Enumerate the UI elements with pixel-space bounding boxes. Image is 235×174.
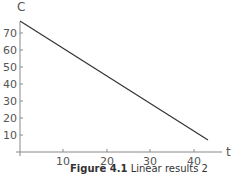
y-tick-label: 10 xyxy=(3,129,17,142)
line-chart: 10 20 30 40 50 60 70 10 20 30 40 C t xyxy=(0,0,235,174)
x-axis-label: t xyxy=(226,145,231,159)
y-tick-label: 30 xyxy=(3,95,17,108)
data-line xyxy=(20,21,208,140)
caption-prefix: Figure 4.1 xyxy=(70,163,127,174)
caption-text: Linear results 2 xyxy=(131,163,208,174)
y-tick-label: 40 xyxy=(3,78,17,91)
y-tick-label: 70 xyxy=(3,27,17,40)
x-tick-label: 10 xyxy=(56,155,70,168)
y-tick-label: 20 xyxy=(3,112,17,125)
y-tick-label: 60 xyxy=(3,44,17,57)
y-tick-label: 50 xyxy=(3,61,17,74)
y-axis-label: C xyxy=(17,0,25,14)
figure-caption: Figure 4.1 Linear results 2 xyxy=(70,163,208,174)
